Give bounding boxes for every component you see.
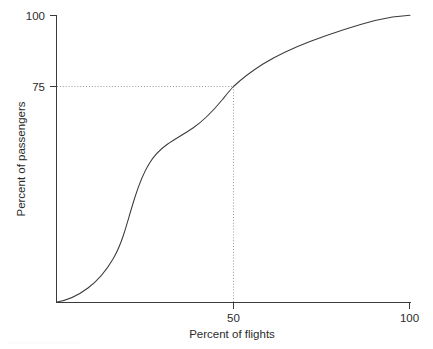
chart-figure: 100 75 50 100 Percent of flights Percent… (0, 0, 433, 349)
x-axis-title: Percent of flights (189, 328, 275, 340)
cumulative-passengers-curve (57, 15, 410, 302)
plot-axes (57, 15, 412, 303)
x-tick-label-100: 100 (400, 312, 419, 324)
scan-artifact (8, 341, 80, 344)
x-tick-label-50: 50 (227, 312, 240, 324)
y-tick-label-100: 100 (26, 10, 45, 22)
y-axis-title: Percent of passengers (15, 101, 27, 216)
lorenz-curve-plot: 100 75 50 100 Percent of flights Percent… (0, 0, 433, 349)
y-tick-label-75: 75 (32, 81, 45, 93)
